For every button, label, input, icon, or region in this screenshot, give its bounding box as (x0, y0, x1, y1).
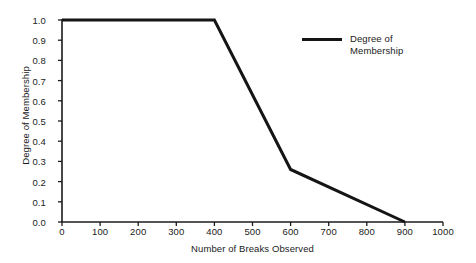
y-tick-label: 0.3 (32, 156, 46, 167)
x-tick-label: 1000 (432, 226, 454, 237)
x-tick-label: 900 (397, 226, 413, 237)
legend: Degree of Membership (302, 33, 424, 57)
y-tick-label: 0.9 (32, 35, 46, 46)
x-tick-label: 600 (283, 226, 299, 237)
y-tick-label: 0.6 (32, 95, 46, 106)
x-tick-label: 800 (359, 226, 375, 237)
chart-figure: 0.00.10.20.30.40.50.60.70.80.91.0 010020… (0, 0, 476, 263)
y-tick-label: 0.8 (32, 55, 46, 66)
y-tick-label: 0.5 (32, 116, 46, 127)
x-axis-tick-labels: 01002003004005006007008009001000 (62, 226, 443, 240)
x-tick-label: 700 (321, 226, 337, 237)
y-tick-label: 1.0 (32, 15, 46, 26)
y-tick-label: 0.2 (32, 176, 46, 187)
x-axis-title: Number of Breaks Observed (62, 243, 443, 254)
y-tick-label: 0.4 (32, 136, 46, 147)
y-tick-label: 0.1 (32, 196, 46, 207)
x-tick-label: 200 (130, 226, 146, 237)
x-tick-label: 400 (206, 226, 222, 237)
y-axis-title: Degree of Membership (20, 15, 31, 217)
x-tick-label: 0 (59, 226, 64, 237)
y-tick-label: 0.7 (32, 75, 46, 86)
x-tick-label: 300 (168, 226, 184, 237)
x-tick-label: 100 (92, 226, 108, 237)
legend-line-swatch (302, 38, 342, 41)
y-tick-label: 0.0 (32, 217, 46, 228)
x-tick-label: 500 (244, 226, 260, 237)
legend-item-label: Degree of Membership (350, 33, 424, 57)
